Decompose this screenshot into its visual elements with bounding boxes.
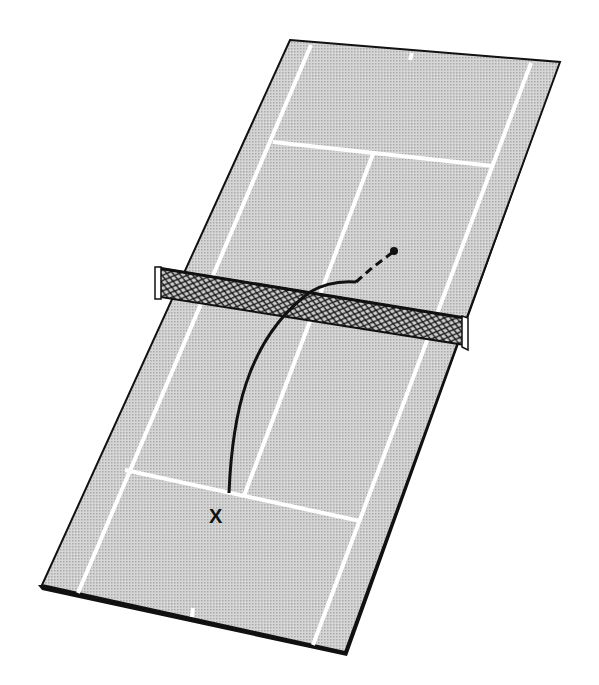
player-position-label: X <box>209 505 222 528</box>
tennis-court-diagram <box>0 0 599 685</box>
near-centre-mark <box>192 608 193 617</box>
left-net-post <box>155 267 161 299</box>
far-centre-mark <box>410 53 412 60</box>
right-net-post <box>462 316 468 350</box>
ball-landing-dot <box>390 247 398 255</box>
